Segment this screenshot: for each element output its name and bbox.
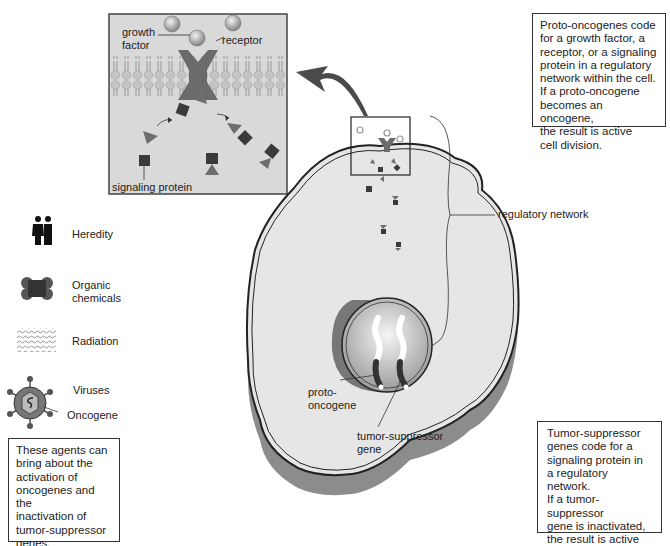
receptor-label: receptor xyxy=(222,34,262,47)
tumor-suppressor-gene-label: tumor-suppressorgene xyxy=(357,430,443,456)
viruses-label: Viruses xyxy=(73,384,109,397)
oncogene-label: Oncogene xyxy=(67,409,118,422)
proto-oncogene-label: proto-oncogene xyxy=(308,386,356,412)
virus-icon xyxy=(7,376,58,429)
proto-oncogene-note: Proto-oncogenes codefor a growth factor,… xyxy=(532,13,666,127)
heredity-label: Heredity xyxy=(72,228,113,241)
growth-factor-label: growthfactor xyxy=(122,26,155,52)
magnify-arrow-icon xyxy=(296,66,368,116)
tumor-suppressor-note: Tumor-suppressorgenes code for asignalin… xyxy=(537,421,662,533)
signaling-protein-label: signaling protein xyxy=(112,181,192,194)
radiation-label: Radiation xyxy=(72,335,118,348)
regulatory-network-label: regulatory network xyxy=(498,208,589,221)
bound-growth-factor xyxy=(189,30,205,46)
couple-icon xyxy=(32,216,52,245)
molecule-icon xyxy=(21,277,53,300)
organic-chemicals-label: Organicchemicals xyxy=(72,279,121,305)
radiation-waves-icon xyxy=(17,328,56,352)
nucleus xyxy=(332,298,432,392)
agents-note: These agents canbring about theactivatio… xyxy=(8,438,120,542)
